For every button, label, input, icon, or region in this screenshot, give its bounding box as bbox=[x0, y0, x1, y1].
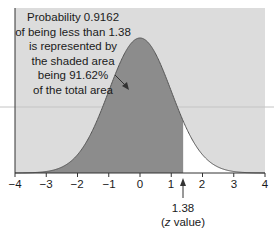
x-tick-label: 2 bbox=[199, 178, 205, 190]
x-axis-ticks bbox=[15, 173, 265, 177]
annotation-line: of the total area bbox=[14, 83, 132, 98]
annotation-line: of being less than 1.38 bbox=[14, 25, 132, 40]
x-tick-label: 4 bbox=[262, 178, 268, 190]
probability-annotation: Probability 0.9162 of being less than 1.… bbox=[14, 10, 132, 97]
x-tick-label: −2 bbox=[70, 178, 83, 190]
annotation-line: being 91.62% bbox=[14, 68, 132, 83]
x-tick-label: −1 bbox=[102, 178, 115, 190]
x-tick-label: −4 bbox=[8, 178, 21, 190]
x-tick-label: 0 bbox=[137, 178, 143, 190]
annotation-line: Probability 0.9162 bbox=[14, 10, 132, 25]
z-value-caption: (z value) bbox=[161, 215, 205, 229]
z-value-label: 1.38 (z value) bbox=[161, 201, 205, 229]
x-tick-label: 3 bbox=[231, 178, 237, 190]
caption-suffix: value) bbox=[171, 216, 206, 228]
annotation-line: the shaded area bbox=[14, 54, 132, 69]
annotation-line: is represented by bbox=[14, 39, 132, 54]
x-tick-label: 1 bbox=[168, 178, 174, 190]
z-value: 1.38 bbox=[161, 201, 205, 215]
z-marker-arrow-head bbox=[180, 178, 186, 186]
x-tick-label: −3 bbox=[39, 178, 52, 190]
